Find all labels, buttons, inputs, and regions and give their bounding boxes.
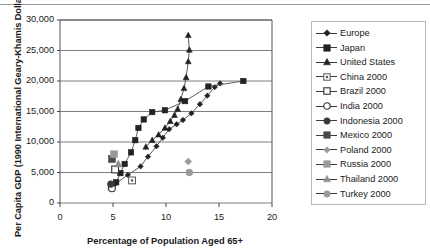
- legend-marker-icon: [316, 158, 337, 170]
- legend-item[interactable]: India 2000: [316, 99, 383, 113]
- legend-marker-glyph: [320, 85, 333, 98]
- legend-item[interactable]: Europe: [316, 26, 370, 40]
- legend-marker-glyph: [320, 56, 333, 69]
- data-point-marker: [174, 122, 179, 127]
- legend-marker-icon: [316, 100, 337, 112]
- legend-item[interactable]: Poland 2000: [316, 143, 392, 157]
- data-point-marker: [185, 158, 192, 165]
- data-point-marker: [175, 106, 181, 111]
- data-point-marker: [150, 109, 155, 114]
- legend-item[interactable]: Russia 2000: [316, 157, 391, 171]
- legend-marker-icon: [316, 144, 337, 156]
- legend-item[interactable]: Mexico 2000: [316, 128, 392, 142]
- series-europe: [112, 81, 222, 187]
- legend-item[interactable]: Thailand 2000: [316, 172, 398, 186]
- legend-marker-glyph: [320, 158, 333, 171]
- legend-marker-icon: [316, 188, 337, 200]
- data-point-marker: [133, 137, 138, 142]
- legend-item[interactable]: China 2000: [316, 70, 387, 84]
- data-point-marker: [185, 32, 191, 37]
- data-point-marker: [323, 44, 329, 50]
- legend-item-label: China 2000: [340, 72, 387, 82]
- data-point-marker: [141, 117, 146, 122]
- data-point-marker: [323, 88, 329, 94]
- data-point-marker: [323, 147, 329, 153]
- data-point-marker: [323, 161, 329, 167]
- legend-marker-glyph: [320, 129, 333, 142]
- data-point-marker: [129, 177, 136, 184]
- legend-item-label: Thailand 2000: [340, 174, 398, 184]
- data-point-marker: [323, 132, 329, 138]
- data-point-marker: [323, 175, 330, 181]
- legend-marker-icon: [316, 56, 337, 68]
- data-point-marker: [172, 112, 178, 117]
- legend-marker-glyph: [320, 41, 333, 54]
- legend-item-label: Indonesia 2000: [340, 116, 403, 126]
- data-point-marker: [162, 108, 167, 113]
- legend-marker-glyph: [320, 27, 333, 40]
- legend-marker-icon: [316, 129, 337, 141]
- legend-marker-icon: [316, 85, 337, 97]
- legend-item-label: India 2000: [340, 101, 383, 111]
- legend-marker-glyph: [320, 70, 333, 83]
- data-point-marker: [323, 74, 329, 80]
- legend-item-label: Turkey 2000: [340, 189, 391, 199]
- data-point-marker: [136, 125, 141, 130]
- legend-marker-icon: [316, 42, 337, 54]
- legend-item-label: Japan: [340, 43, 365, 53]
- data-point-marker: [107, 181, 114, 188]
- data-point-marker: [323, 117, 329, 123]
- legend-marker-icon: [316, 71, 337, 83]
- data-point-marker: [323, 103, 329, 109]
- data-point-marker: [241, 78, 246, 83]
- series-line: [115, 83, 220, 184]
- legend-marker-glyph: [320, 114, 333, 127]
- data-point-marker: [181, 85, 187, 90]
- legend-marker-glyph: [320, 173, 333, 186]
- legend-item-label: United States: [340, 57, 395, 67]
- legend-item-label: Brazil 2000: [340, 86, 386, 96]
- data-point-marker: [186, 47, 192, 52]
- data-point-marker: [185, 58, 191, 63]
- legend-marker-glyph: [320, 143, 333, 156]
- legend-marker-icon: [316, 27, 337, 39]
- legend-item-label: Mexico 2000: [340, 130, 392, 140]
- legend-item-label: Russia 2000: [340, 159, 391, 169]
- legend-item[interactable]: Turkey 2000: [316, 187, 391, 201]
- data-point-marker: [323, 190, 329, 196]
- data-point-marker: [128, 150, 133, 155]
- legend-marker-glyph: [320, 100, 333, 113]
- data-point-marker: [122, 161, 127, 166]
- legend-marker-icon: [316, 115, 337, 127]
- series-line: [111, 81, 244, 187]
- data-point-marker: [206, 84, 211, 89]
- legend-item[interactable]: United States: [316, 55, 395, 69]
- data-point-marker: [115, 160, 122, 167]
- legend-marker-icon: [316, 173, 337, 185]
- data-point-marker: [323, 30, 329, 36]
- legend-item[interactable]: Indonesia 2000: [316, 114, 403, 128]
- legend-marker-glyph: [320, 187, 333, 200]
- legend-item[interactable]: Brazil 2000: [316, 84, 386, 98]
- data-point-marker: [186, 169, 193, 176]
- data-point-marker: [183, 74, 189, 79]
- data-point-marker: [111, 151, 118, 158]
- chart-canvas: Per Capita GDP (1990 International Geary…: [0, 0, 430, 251]
- chart-legend: EuropeJapanUnited StatesChina 2000Brazil…: [311, 21, 426, 205]
- data-point-marker: [323, 59, 330, 65]
- legend-item-label: Poland 2000: [340, 145, 392, 155]
- legend-item-label: Europe: [340, 28, 370, 38]
- legend-item[interactable]: Japan: [316, 41, 365, 55]
